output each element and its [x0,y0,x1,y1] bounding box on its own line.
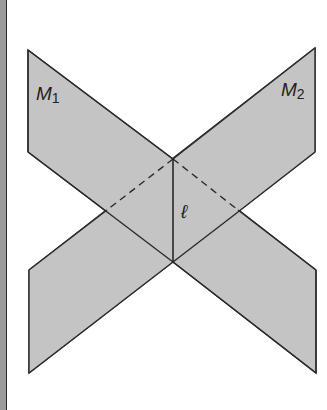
intersecting-planes-diagram: M1 M2 ℓ [0,0,327,410]
label-l: ℓ [180,201,188,222]
